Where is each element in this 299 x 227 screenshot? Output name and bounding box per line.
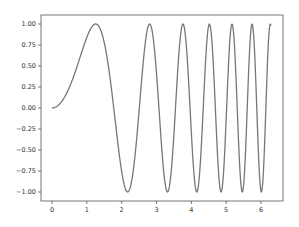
x-tick-label: 3 — [154, 206, 158, 214]
x-tick-label: 4 — [189, 206, 193, 214]
x-tick-label: 1 — [85, 206, 89, 214]
y-tick-label: 0.00 — [22, 104, 36, 112]
x-tick-label: 2 — [120, 206, 124, 214]
y-axis: 1.000.750.500.250.00−0.25−0.50−0.75−1.00 — [16, 20, 41, 196]
x-axis: 0123456 — [50, 201, 263, 214]
y-tick-label: 1.00 — [22, 20, 36, 28]
y-tick-label: 0.75 — [22, 41, 36, 49]
x-tick-label: 0 — [50, 206, 54, 214]
line-chart: 1.000.750.500.250.00−0.25−0.50−0.75−1.00… — [0, 0, 299, 227]
y-tick-label: −0.75 — [16, 167, 36, 175]
x-tick-label: 6 — [259, 206, 263, 214]
y-tick-label: −0.50 — [16, 146, 36, 154]
y-tick-label: −0.25 — [16, 125, 36, 133]
x-tick-label: 5 — [224, 206, 228, 214]
y-tick-label: 0.50 — [22, 62, 36, 70]
y-tick-label: 0.25 — [22, 83, 36, 91]
y-tick-label: −1.00 — [16, 188, 36, 196]
